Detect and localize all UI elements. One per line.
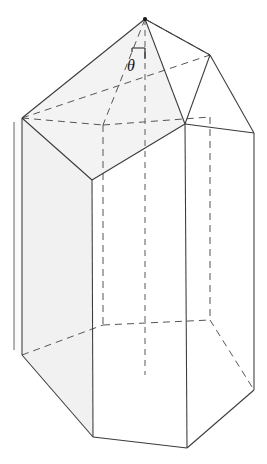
edge-bottom-front xyxy=(93,437,187,448)
body-face-far-left xyxy=(14,118,22,355)
edge-ridge-right-to-right-upper xyxy=(210,55,254,133)
hidden-edge-bottom-back-right xyxy=(103,320,210,325)
edge-ridge-right-to-front-body-right xyxy=(185,55,210,124)
edge-front-body-right-to-right-upper xyxy=(185,124,254,133)
hidden-edge-bottom-to-right-lower xyxy=(210,320,254,390)
theta-angle-label: θ xyxy=(127,57,135,74)
apex-point-marker xyxy=(143,17,147,21)
hexagonal-prism-diagram: θ xyxy=(0,0,267,464)
figure-container: θ xyxy=(0,0,267,464)
edge-bottom-front-right-to-right xyxy=(187,390,254,448)
edge-vertical-front-right xyxy=(185,124,187,448)
shaded-faces xyxy=(14,19,185,437)
